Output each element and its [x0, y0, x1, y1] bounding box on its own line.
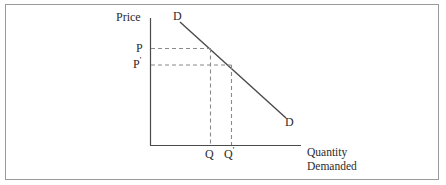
prime-mark-q-prime: ': [233, 145, 235, 155]
figure-screenshot: Price D D P P' Q Q' Quantity Demanded: [0, 0, 446, 185]
y-axis-label-price: Price: [116, 11, 141, 23]
quantity-tick-label-q-prime: Q': [224, 148, 234, 160]
price-tick-label-p: P: [136, 42, 143, 54]
price-tick-label-p-prime: P': [133, 58, 141, 70]
demand-curve: [180, 22, 286, 118]
demand-diagram-canvas: [0, 0, 446, 185]
x-axis-label-quantity: Quantity: [307, 147, 347, 159]
prime-mark-p-prime: ': [140, 55, 142, 65]
demand-curve-label-top: D: [173, 10, 182, 22]
x-axis-label-demanded: Demanded: [307, 161, 357, 173]
demand-curve-label-bottom: D: [285, 116, 294, 128]
quantity-tick-label-q: Q: [205, 148, 214, 160]
